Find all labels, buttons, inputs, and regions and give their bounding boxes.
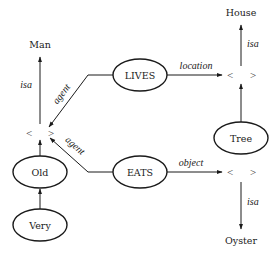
instance-left-bracket: <: [227, 166, 233, 178]
instance-right-bracket: >: [250, 69, 256, 81]
instance-left-bracket: <: [227, 69, 233, 81]
edge-label-location: location: [180, 60, 213, 71]
edge-label-object: object: [179, 157, 204, 168]
node-location-instance: < >: [227, 69, 256, 81]
node-tree: Tree: [230, 133, 252, 144]
instance-left-bracket: <: [26, 127, 32, 139]
node-house: House: [226, 7, 257, 18]
node-very: Very: [28, 220, 51, 231]
edge-label-lives-agent: agent: [50, 82, 72, 107]
node-lives: LIVES: [125, 70, 155, 81]
node-eats: EATS: [127, 167, 153, 178]
node-oyster: Oyster: [225, 235, 257, 246]
node-object-instance: < >: [227, 166, 256, 178]
node-man: Man: [29, 39, 51, 50]
node-old: Old: [32, 167, 49, 178]
edge-label-isa-oyster: isa: [247, 196, 259, 207]
instance-right-bracket: >: [48, 127, 54, 139]
node-person-instance: < >: [26, 127, 54, 139]
semantic-network-diagram: Man isa < > Old Very agent LIVES agent E…: [0, 0, 280, 255]
edge-label-isa-man: isa: [20, 79, 32, 90]
instance-right-bracket: >: [250, 166, 256, 178]
edge-label-isa-house: isa: [247, 38, 259, 49]
